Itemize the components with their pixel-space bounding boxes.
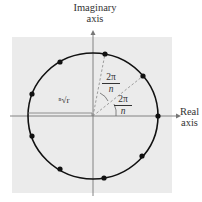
- root-point: [29, 91, 34, 96]
- real-axis-label: Real axis: [177, 106, 202, 128]
- root-point: [29, 133, 34, 138]
- root-point: [102, 51, 107, 56]
- root-point: [57, 59, 62, 64]
- root-point: [57, 166, 62, 171]
- angle-label-upper: 2π n: [102, 72, 120, 95]
- imaginary-axis-arrow-icon: [91, 30, 96, 35]
- angle-label-lower: 2π n: [114, 94, 132, 117]
- root-point: [101, 175, 106, 180]
- real-axis-label-line2: axis: [177, 117, 202, 128]
- complex-plane-diagram: [0, 0, 202, 202]
- imaginary-axis-label-line1: Imaginary: [70, 2, 120, 13]
- root-point: [140, 73, 145, 78]
- root-point: [155, 113, 160, 118]
- real-axis-label-line1: Real: [177, 106, 202, 117]
- imaginary-axis-label: Imaginary axis: [70, 2, 120, 24]
- root-point: [139, 153, 144, 158]
- imaginary-axis-label-line2: axis: [70, 13, 120, 24]
- radius-label: ⁿ√r: [52, 95, 76, 106]
